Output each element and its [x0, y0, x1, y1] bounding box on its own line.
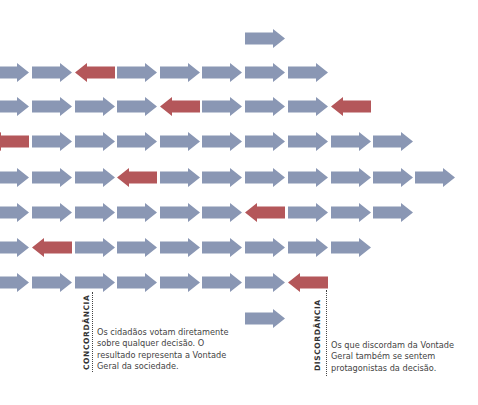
agree-arrow-right-icon [160, 63, 200, 82]
agree-arrow-right-icon [0, 97, 29, 116]
agree-arrow-right-icon [117, 97, 157, 116]
agree-arrow-right-icon [245, 63, 285, 82]
agree-arrow-right-icon [75, 168, 115, 187]
agree-arrow-right-icon [288, 203, 328, 222]
agree-arrow-right-icon [117, 132, 157, 151]
agree-arrow-right-icon [202, 238, 242, 257]
agree-arrow-right-icon [245, 168, 285, 187]
agree-arrow-right-icon [0, 203, 29, 222]
caption-line: resultado representa a Vontade [97, 350, 228, 361]
agree-arrow-right-icon [245, 132, 285, 151]
agree-arrow-right-icon [202, 168, 242, 187]
agree-arrow-right-icon [202, 132, 242, 151]
caption-line: sobre qualquer decisão. O [97, 338, 228, 349]
disagree-arrow-left-icon [288, 273, 328, 292]
discordancia-dotted-line [326, 290, 327, 376]
concordancia-dotted-line [92, 292, 93, 372]
agree-arrow-right-icon [245, 238, 285, 257]
agree-arrow-right-icon [117, 238, 157, 257]
agree-arrow-right-icon [160, 132, 200, 151]
agree-arrow-right-icon [331, 238, 371, 257]
agree-arrow-right-icon [0, 273, 29, 292]
agree-arrow-right-icon [245, 97, 285, 116]
agree-arrow-right-icon [117, 273, 157, 292]
agree-arrow-right-icon [331, 132, 371, 151]
caption-line: Os cidadãos votam diretamente [97, 327, 228, 338]
agree-arrow-right-icon [0, 63, 29, 82]
disagree-arrow-left-icon [331, 97, 371, 116]
agree-arrow-right-icon [245, 309, 285, 328]
disagree-arrow-left-icon [117, 168, 157, 187]
agree-arrow-right-icon [288, 132, 328, 151]
agree-arrow-right-icon [415, 168, 455, 187]
agree-arrow-right-icon [32, 168, 72, 187]
agree-arrow-right-icon [75, 203, 115, 222]
disagree-arrow-left-icon [32, 238, 72, 257]
agree-arrow-right-icon [160, 168, 200, 187]
agree-arrow-right-icon [75, 238, 115, 257]
agree-arrow-right-icon [117, 63, 157, 82]
agree-arrow-right-icon [288, 238, 328, 257]
agree-arrow-right-icon [32, 132, 72, 151]
agree-arrow-right-icon [75, 273, 115, 292]
discordancia-label: DISCORDÂNCIA [313, 299, 322, 371]
disagree-arrow-left-icon [245, 203, 285, 222]
agree-arrow-right-icon [75, 97, 115, 116]
caption-line: protagonistas da decisão. [331, 363, 454, 374]
agree-arrow-right-icon [331, 203, 371, 222]
arrow-diagram: CONCORDÂNCIA Os cidadãos votam diretamen… [0, 0, 478, 405]
discordancia-caption: Os que discordam da Vontade Geral também… [331, 340, 454, 374]
disagree-arrow-left-icon [0, 132, 29, 151]
agree-arrow-right-icon [288, 97, 328, 116]
agree-arrow-right-icon [288, 168, 328, 187]
agree-arrow-right-icon [245, 273, 285, 292]
agree-arrow-right-icon [331, 168, 371, 187]
concordancia-caption: Os cidadãos votam diretamente sobre qual… [97, 327, 228, 372]
agree-arrow-right-icon [0, 168, 29, 187]
agree-arrow-right-icon [0, 238, 29, 257]
agree-arrow-right-icon [202, 273, 242, 292]
agree-arrow-right-icon [160, 203, 200, 222]
concordancia-label: CONCORDÂNCIA [82, 295, 91, 370]
agree-arrow-right-icon [32, 203, 72, 222]
disagree-arrow-left-icon [160, 97, 200, 116]
agree-arrow-right-icon [373, 203, 413, 222]
agree-arrow-right-icon [373, 168, 413, 187]
agree-arrow-right-icon [32, 273, 72, 292]
agree-arrow-right-icon [202, 63, 242, 82]
agree-arrow-right-icon [160, 238, 200, 257]
agree-arrow-right-icon [32, 97, 72, 116]
agree-arrow-right-icon [75, 132, 115, 151]
agree-arrow-right-icon [160, 273, 200, 292]
agree-arrow-right-icon [117, 203, 157, 222]
agree-arrow-right-icon [202, 97, 242, 116]
caption-line: Geral também se sentem [331, 351, 454, 362]
agree-arrow-right-icon [288, 63, 328, 82]
caption-line: Os que discordam da Vontade [331, 340, 454, 351]
agree-arrow-right-icon [245, 29, 285, 48]
disagree-arrow-left-icon [75, 63, 115, 82]
agree-arrow-right-icon [202, 203, 242, 222]
agree-arrow-right-icon [32, 63, 72, 82]
caption-line: Geral da sociedade. [97, 361, 228, 372]
agree-arrow-right-icon [373, 132, 413, 151]
